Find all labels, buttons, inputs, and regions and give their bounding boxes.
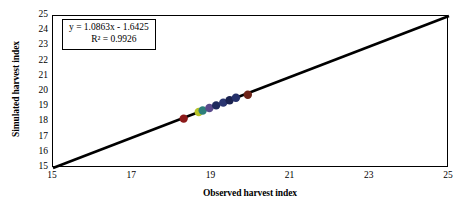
- data-point-marker: [232, 94, 240, 102]
- chart-figure: Simulated harvest index Observed harvest…: [0, 0, 470, 207]
- x-axis-tick-label: 17: [111, 171, 151, 181]
- x-axis-tick-label: 23: [349, 171, 389, 181]
- data-point-marker: [179, 114, 187, 122]
- x-axis-tick-label: 21: [270, 171, 310, 181]
- plot-area: y = 1.0863x - 1.6425 R² = 0.9926: [52, 15, 448, 167]
- regression-equation-text: y = 1.0863x - 1.6425: [69, 22, 149, 34]
- r-squared-text: R² = 0.9926: [69, 34, 149, 46]
- data-point-marker: [244, 91, 252, 99]
- x-axis-tick-label: 19: [190, 171, 230, 181]
- equation-annotation-box: y = 1.0863x - 1.6425 R² = 0.9926: [62, 19, 156, 50]
- x-axis-tick-label: 25: [428, 171, 468, 181]
- x-axis-tick-label: 15: [32, 171, 72, 181]
